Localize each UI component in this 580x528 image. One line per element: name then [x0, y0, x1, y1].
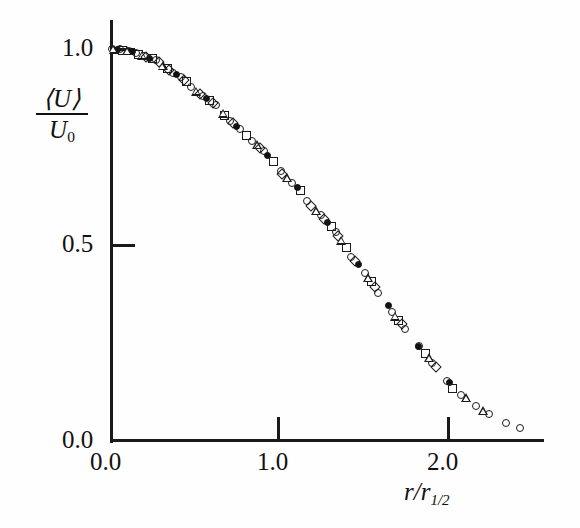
triangle-inner-fill: [426, 356, 432, 361]
triangle-inner-fill: [124, 49, 130, 54]
data-point-open-triangle: [424, 353, 434, 362]
data-point-open-square: [296, 186, 305, 195]
data-point-open-triangle: [461, 393, 471, 402]
data-point-open-circle: [516, 424, 524, 432]
data-point-open-triangle: [122, 46, 132, 55]
data-point-filled-circle: [173, 71, 180, 78]
data-point-filled-circle: [385, 302, 392, 309]
triangle-inner-fill: [392, 314, 398, 319]
data-point-open-square: [448, 384, 457, 393]
triangle-inner-fill: [313, 209, 319, 214]
triangle-inner-fill: [365, 276, 371, 281]
triangle-inner-fill: [220, 111, 226, 116]
triangle-inner-fill: [110, 47, 116, 52]
data-point-open-square: [269, 157, 278, 166]
scatter-layer: [0, 0, 580, 528]
data-point-open-triangle: [218, 109, 228, 118]
triangle-inner-fill: [480, 409, 486, 414]
triangle-inner-fill: [463, 396, 469, 401]
data-point-open-triangle: [109, 45, 119, 54]
data-point-open-circle: [502, 419, 510, 427]
data-point-open-triangle: [363, 273, 373, 282]
data-point-open-square: [327, 222, 336, 231]
data-point-open-triangle: [478, 406, 488, 415]
data-point-open-triangle: [390, 312, 400, 321]
data-point-open-square: [242, 131, 251, 140]
figure-canvas: 1.0 0.5 0.0 0.0 1.0 2.0 ⟨U⟩ U0 r/r1/2: [0, 0, 580, 528]
